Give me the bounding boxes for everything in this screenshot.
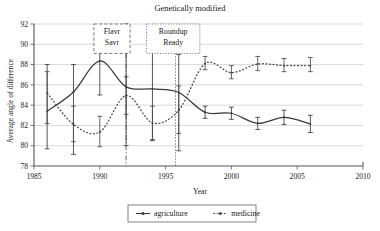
legend-marker-medicine xyxy=(219,212,222,215)
data-point xyxy=(283,65,285,67)
annotation-vertical-lines xyxy=(126,53,175,166)
chart-title: Genetically modified xyxy=(155,4,227,13)
chart-container: Genetically modified 7880828486889092 19… xyxy=(0,0,380,231)
x-tick-label: 2000 xyxy=(224,172,239,181)
data-point xyxy=(125,95,127,97)
y-tick-label: 92 xyxy=(20,20,28,29)
y-tick-labels: 7880828486889092 xyxy=(20,20,28,171)
x-tick-label: 2005 xyxy=(290,172,305,181)
chart-legend: agriculturemedicine xyxy=(128,205,260,222)
x-tick-label: 1985 xyxy=(26,172,41,181)
y-tick-label: 84 xyxy=(20,101,28,110)
y-tick-label: 78 xyxy=(20,162,28,171)
annotation-flavr: FlavrSavr xyxy=(94,24,130,53)
data-point xyxy=(99,131,101,133)
y-tick-label: 80 xyxy=(20,141,28,150)
annotation-label-line1: Roundup xyxy=(159,27,188,36)
annotation-label-line1: Flavr xyxy=(104,27,121,36)
annotation-label-line2: Savr xyxy=(105,38,120,47)
data-point xyxy=(99,60,101,62)
data-point xyxy=(73,123,75,125)
x-tick-label: 1990 xyxy=(92,172,107,181)
x-tick-label: 2010 xyxy=(355,172,370,181)
y-tick-label: 88 xyxy=(20,60,28,69)
y-tick-label: 82 xyxy=(20,121,28,130)
y-tick-label: 90 xyxy=(20,40,28,49)
data-point xyxy=(309,123,311,125)
data-point xyxy=(151,122,153,124)
genetically-modified-line-chart: Genetically modified 7880828486889092 19… xyxy=(0,0,380,231)
y-tick-label: 86 xyxy=(20,81,28,90)
y-axis-label: Average angle of difference xyxy=(6,58,15,143)
data-point xyxy=(151,88,153,90)
data-point xyxy=(204,111,206,113)
x-tick-labels: 198519901995200020052010 xyxy=(26,172,370,181)
data-point xyxy=(46,92,48,94)
legend-label-medicine: medicine xyxy=(231,209,260,218)
annotation-roundup: RoundupReady xyxy=(147,24,200,53)
annotation-boxes: FlavrSavrRoundupReady xyxy=(94,24,200,53)
data-point xyxy=(178,109,180,111)
data-point xyxy=(204,63,206,65)
data-point xyxy=(257,122,259,124)
data-point xyxy=(230,72,232,74)
data-point xyxy=(283,116,285,118)
data-point xyxy=(309,65,311,67)
x-axis-label: Year xyxy=(193,187,207,196)
data-point xyxy=(230,112,232,114)
x-tick-label: 1995 xyxy=(158,172,173,181)
data-point xyxy=(257,63,259,65)
legend-label-agriculture: agriculture xyxy=(154,209,188,218)
legend-marker-agriculture xyxy=(142,212,145,215)
annotation-label-line2: Ready xyxy=(163,38,183,47)
data-point xyxy=(73,91,75,93)
